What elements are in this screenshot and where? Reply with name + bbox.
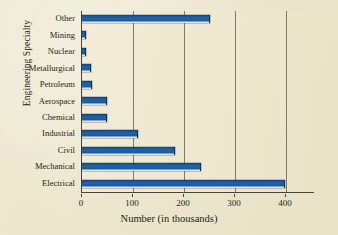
bar-mechanical [82, 163, 201, 171]
bar-row [82, 27, 314, 43]
x-tick-mark-200 [183, 194, 184, 197]
bar-row [82, 60, 314, 76]
x-tick-mark-100 [132, 194, 133, 197]
bar-civil [82, 147, 175, 155]
y-tick-label-aerospace: Aerospace [11, 97, 75, 106]
bar-mining [82, 31, 86, 39]
bar-aerospace [82, 97, 107, 105]
bar-other [82, 15, 210, 23]
bar-nuclear [82, 48, 86, 56]
plot-area [81, 11, 314, 193]
y-tick-label-petroleum: Petroleum [11, 80, 75, 89]
y-tick-label-civil: Civil [11, 146, 75, 155]
bar-petroleum [82, 81, 92, 89]
x-tick-mark-0 [81, 194, 82, 197]
x-axis-title: Number (in thousands) [0, 213, 338, 224]
y-tick-label-other: Other [11, 14, 75, 23]
bar-row [82, 176, 314, 192]
bar-row [82, 44, 314, 60]
x-tick-label-300: 300 [219, 198, 249, 208]
y-tick-label-nuclear: Nuclear [11, 47, 75, 56]
y-tick-label-mechanical: Mechanical [11, 162, 75, 171]
bar-row [82, 93, 314, 109]
bar-row [82, 126, 314, 142]
y-tick-label-mining: Mining [11, 31, 75, 40]
x-tick-label-0: 0 [66, 198, 96, 208]
bar-chart: Engineering Specialty OtherMiningNuclear… [0, 0, 338, 235]
x-tick-label-100: 100 [117, 198, 147, 208]
bar-row [82, 159, 314, 175]
bar-industrial [82, 130, 138, 138]
y-tick-label-metallurgical: Metallurgical [11, 64, 75, 73]
y-axis-tick-labels: OtherMiningNuclearMetallurgicalPetroleum… [14, 11, 78, 192]
y-tick-label-chemical: Chemical [11, 113, 75, 122]
bar-chemical [82, 114, 107, 122]
bar-row [82, 77, 314, 93]
y-tick-label-electrical: Electrical [11, 179, 75, 188]
bar-row [82, 110, 314, 126]
bar-metallurgical [82, 64, 91, 72]
x-tick-label-400: 400 [270, 198, 300, 208]
y-tick-label-industrial: Industrial [11, 129, 75, 138]
x-tick-mark-300 [234, 194, 235, 197]
x-tick-label-200: 200 [168, 198, 198, 208]
x-tick-mark-400 [285, 194, 286, 197]
bar-electrical [82, 180, 285, 188]
bar-row [82, 11, 314, 27]
bar-row [82, 143, 314, 159]
